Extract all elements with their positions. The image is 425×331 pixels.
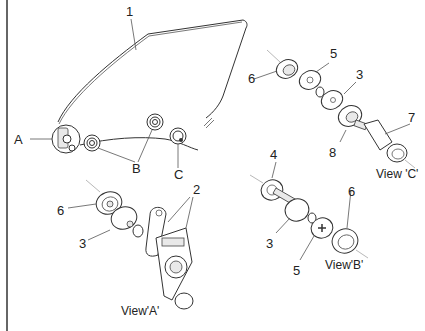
callout-2: 2 [193, 183, 200, 196]
callout-6-view-a: 6 [57, 204, 64, 217]
callout-6-view-b: 6 [348, 185, 355, 198]
callout-5-view-b: 5 [293, 264, 300, 277]
parts-diagram: 1 A B C 6 5 3 7 8 View 'C' 2 6 3 View'A'… [0, 0, 425, 331]
callout-C: C [174, 168, 183, 181]
callout-8: 8 [329, 146, 336, 159]
callout-A: A [14, 133, 23, 146]
callout-3-view-b: 3 [266, 237, 273, 250]
callout-3-view-a: 3 [79, 237, 86, 250]
view-c-label: View 'C' [376, 168, 418, 180]
mount-c [170, 128, 186, 168]
callout-6-view-c: 6 [248, 72, 255, 85]
diagram-drawing [0, 0, 425, 331]
view-a-assembly [68, 180, 193, 309]
callout-1: 1 [126, 5, 133, 18]
view-a-label: View'A' [121, 305, 159, 317]
callout-3-view-c: 3 [356, 68, 363, 81]
callout-5-view-c: 5 [330, 47, 337, 60]
glass-panel [58, 19, 247, 150]
callout-7: 7 [408, 111, 415, 124]
view-b-label: View'B' [325, 259, 363, 271]
callout-B: B [132, 162, 141, 175]
mount-a [30, 125, 80, 153]
callout-4: 4 [270, 148, 277, 161]
